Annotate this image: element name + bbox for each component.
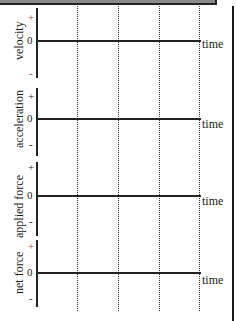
net-force-time-axis (36, 272, 201, 274)
acceleration-minus-mark: - (29, 139, 33, 150)
applied-force-time-label: time (202, 195, 223, 207)
velocity-time-label: time (202, 38, 223, 50)
applied-force-zero-mark: 0 (27, 190, 33, 201)
net-force-zero-mark: 0 (27, 267, 33, 278)
acceleration-axis-label: acceleration (12, 90, 27, 148)
velocity-plus-mark: + (28, 12, 34, 23)
applied-force-plus-mark: + (28, 162, 34, 173)
net-force-minus-mark: - (29, 293, 33, 304)
acceleration-time-axis (36, 118, 201, 120)
acceleration-y-axis (36, 88, 38, 156)
net-force-time-label: time (202, 274, 223, 286)
velocity-y-axis (36, 8, 38, 78)
applied-force-y-axis (36, 162, 38, 236)
applied-force-axis-label: applied force (12, 175, 27, 238)
time-gridline-2 (118, 6, 119, 311)
net-force-axis-label: net force (12, 252, 27, 294)
velocity-zero-mark: 0 (27, 35, 33, 46)
velocity-minus-mark: - (29, 68, 33, 79)
time-gridline-4 (199, 6, 200, 311)
time-gridline-3 (159, 6, 160, 311)
top-banner-edge (215, 0, 217, 5)
net-force-plus-mark: + (28, 241, 34, 252)
applied-force-minus-mark: - (29, 216, 33, 227)
time-gridline-1 (77, 6, 78, 311)
velocity-time-axis (36, 40, 201, 42)
velocity-axis-label: velocity (12, 21, 27, 60)
frame-right-border (232, 6, 234, 321)
top-banner (0, 0, 215, 5)
acceleration-time-label: time (202, 118, 223, 130)
acceleration-zero-mark: 0 (27, 113, 33, 124)
acceleration-plus-mark: + (28, 91, 34, 102)
applied-force-time-axis (36, 195, 201, 197)
